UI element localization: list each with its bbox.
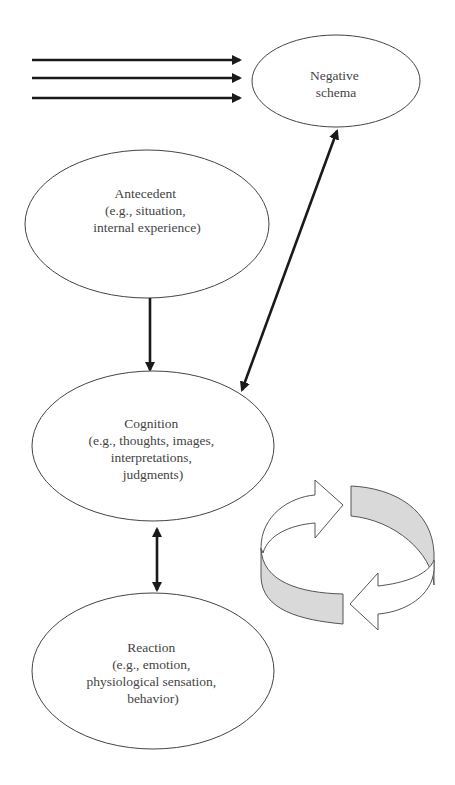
reaction-line-2: (e.g., emotion, [112, 657, 190, 672]
negative-schema-line-1: Negative [310, 68, 359, 83]
cognition-line-2: (e.g., thoughts, images, [89, 433, 215, 448]
cognition-line-4: judgments) [122, 467, 184, 482]
antecedent-line-2: (e.g., situation, [105, 203, 186, 218]
node-reaction: Reaction (e.g., emotion, physiological s… [32, 593, 274, 749]
antecedent-line-1: Antecedent [115, 186, 177, 201]
cognition-line-3: interpretations, [111, 450, 192, 465]
cognition-line-1: Cognition [124, 416, 178, 431]
node-antecedent: Antecedent (e.g., situation, internal ex… [25, 150, 269, 298]
cycle-arrows-icon [261, 480, 434, 630]
node-negative-schema: Negative schema [252, 35, 420, 127]
diagram-canvas: Negative schema Antecedent (e.g., situat… [0, 0, 455, 785]
reaction-line-4: behavior) [127, 691, 179, 706]
reaction-line-1: Reaction [127, 640, 175, 655]
negative-schema-line-2: schema [316, 85, 356, 100]
reaction-line-3: physiological sensation, [86, 674, 216, 689]
antecedent-line-3: internal experience) [93, 220, 201, 235]
node-cognition: Cognition (e.g., thoughts, images, inter… [32, 371, 274, 521]
arrow-schema-cognition [242, 131, 337, 390]
input-arrows [32, 60, 240, 98]
